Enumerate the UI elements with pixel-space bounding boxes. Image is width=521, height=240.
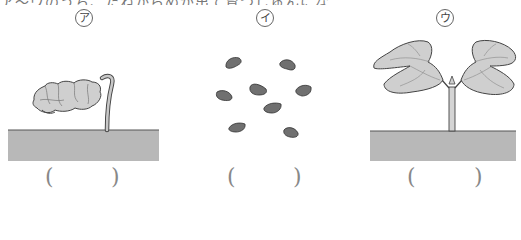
answer-blank-i[interactable] (240, 166, 290, 188)
seed-leaf-right-icon (461, 40, 516, 94)
soil-u (370, 131, 516, 161)
crumpled-seed-leaves-icon (33, 80, 101, 113)
answer-close-paren-u: ) (474, 164, 483, 189)
seed-leaf-left-icon (374, 41, 443, 93)
sprout-stem-a (102, 76, 112, 130)
soil-a (8, 130, 159, 161)
answer-open-paren-u: ( (407, 164, 416, 189)
seeds (216, 57, 311, 137)
answer-blank-a[interactable] (58, 166, 108, 188)
answer-close-paren-i: ) (293, 164, 302, 189)
answer-close-paren-a: ) (111, 164, 120, 189)
answer-blank-u[interactable] (420, 166, 470, 188)
answer-open-paren-a: ( (45, 164, 54, 189)
seedling-stem-u (442, 76, 462, 131)
answer-open-paren-i: ( (227, 164, 236, 189)
